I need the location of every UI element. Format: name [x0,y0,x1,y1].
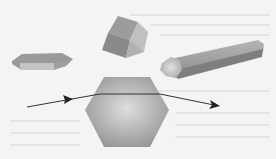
hexagon-cross-section [85,77,169,147]
hexagonal-column [160,40,264,79]
cube-crystal [102,16,148,58]
arrowhead-icon [63,95,73,104]
hexagonal-plate [12,53,73,70]
crystal-diagram [0,0,276,159]
